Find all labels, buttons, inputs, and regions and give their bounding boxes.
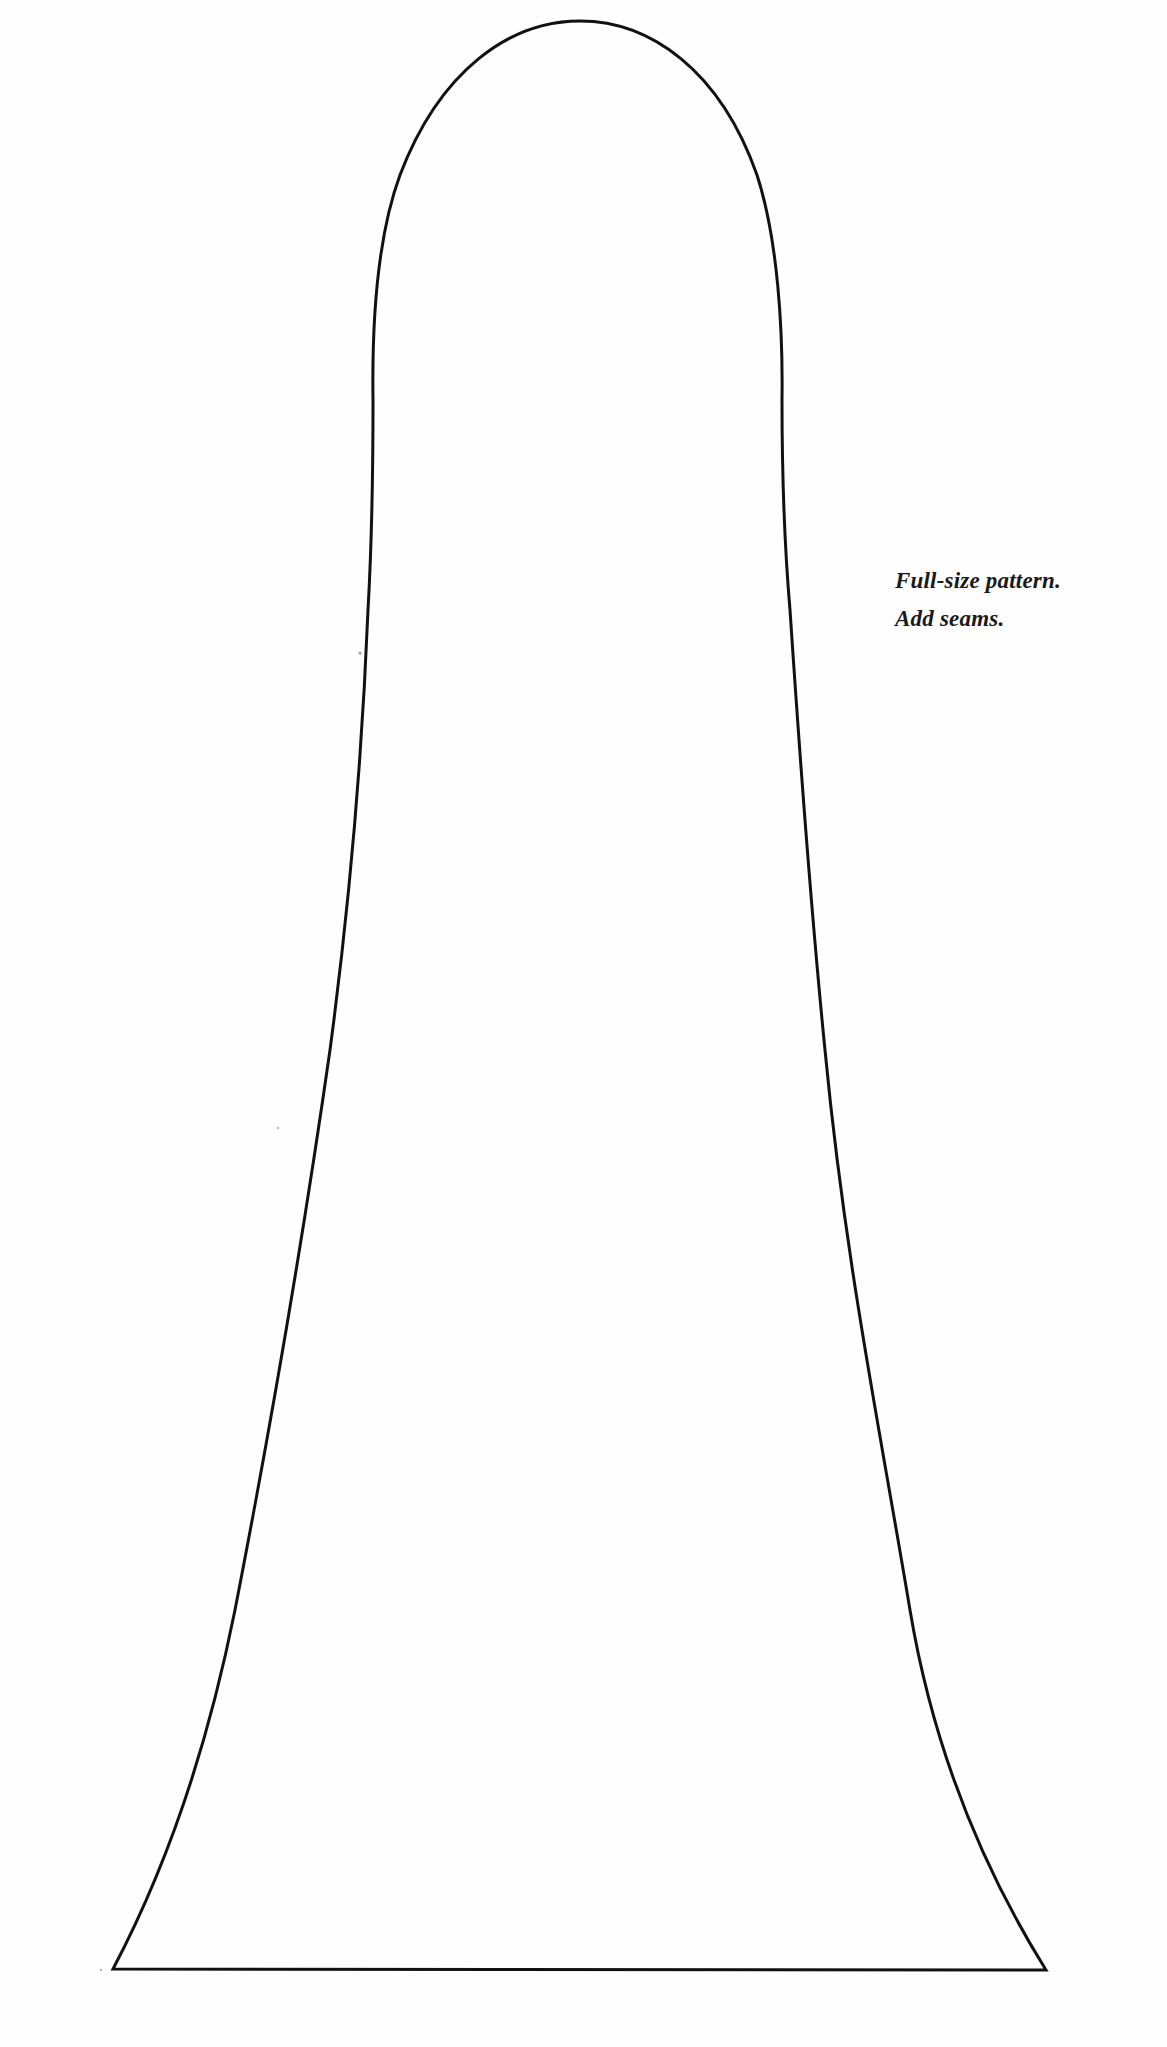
- print-speck: [359, 652, 362, 655]
- print-speck: [100, 1969, 102, 1971]
- pattern-page: Full-size pattern. Add seams.: [0, 0, 1167, 2047]
- instruction-add-seams: Add seams.: [895, 600, 1061, 638]
- print-speck: [277, 1127, 279, 1129]
- pattern-outline: [113, 21, 1046, 1970]
- pattern-instructions: Full-size pattern. Add seams.: [895, 562, 1061, 638]
- pattern-piece: [0, 0, 1167, 2047]
- instruction-full-size: Full-size pattern.: [895, 562, 1061, 600]
